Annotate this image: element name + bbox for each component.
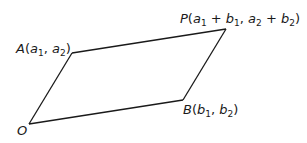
coord: a <box>248 11 256 26</box>
coord: b <box>219 102 227 117</box>
paren: ) <box>295 11 300 26</box>
point-name: O <box>17 123 27 138</box>
vertex-label-P: P(a1 + b1, a2 + b2) <box>180 12 300 25</box>
separator: , <box>44 41 52 56</box>
vertex-label-O: O <box>17 124 27 137</box>
edge-BO <box>29 100 183 124</box>
plus-sign: + <box>207 11 226 26</box>
vertex-label-A: A(a1, a2) <box>16 42 71 55</box>
point-name: B <box>183 102 192 117</box>
separator: , <box>240 11 248 26</box>
coord: b <box>226 11 234 26</box>
edge-PB <box>183 29 226 100</box>
plus-sign: + <box>262 11 281 26</box>
coord: a <box>193 11 201 26</box>
point-name: P <box>180 11 188 26</box>
paren: ) <box>233 102 238 117</box>
paren: ) <box>66 41 71 56</box>
point-name: A <box>16 41 25 56</box>
vertex-label-B: B(b1, b2) <box>183 103 238 116</box>
edge-AP <box>72 29 226 53</box>
edge-OA <box>29 53 72 124</box>
coord: a <box>30 41 38 56</box>
coord: a <box>52 41 60 56</box>
coord: b <box>281 11 289 26</box>
